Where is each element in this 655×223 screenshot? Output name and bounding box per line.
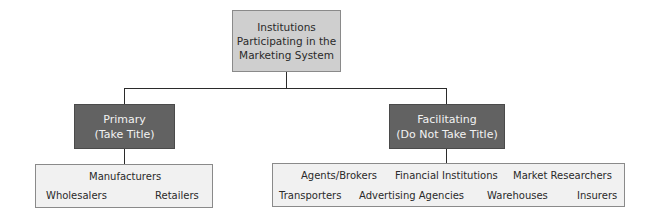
facilitating-item: Warehouses — [487, 190, 548, 201]
root-line-1: Institutions — [237, 20, 336, 34]
primary-item: Manufacturers — [89, 171, 161, 182]
facilitating-title: Facilitating — [417, 112, 477, 127]
connector-facilitating-in — [446, 88, 447, 104]
primary-item: Retailers — [155, 190, 199, 201]
facilitating-items-box: Agents/Brokers Financial Institutions Ma… — [272, 163, 625, 207]
facilitating-item: Advertising Agencies — [359, 190, 464, 201]
primary-subtitle: (Take Title) — [94, 127, 154, 142]
root-line-3: Marketing System — [237, 48, 336, 62]
root-line-2: Participating in the — [237, 34, 336, 48]
root-node: Institutions Participating in the Market… — [232, 10, 341, 72]
connector-facilitating-out — [446, 149, 447, 163]
primary-title: Primary — [103, 112, 146, 127]
facilitating-node: Facilitating (Do Not Take Title) — [389, 104, 505, 149]
facilitating-item: Market Researchers — [513, 170, 612, 181]
facilitating-item: Financial Institutions — [395, 170, 498, 181]
facilitating-item: Transporters — [279, 190, 341, 201]
connector-horizontal — [124, 88, 447, 89]
facilitating-item: Agents/Brokers — [301, 170, 377, 181]
primary-item: Wholesalers — [46, 190, 107, 201]
facilitating-subtitle: (Do Not Take Title) — [396, 127, 498, 142]
connector-primary-in — [124, 88, 125, 104]
connector-root-down — [286, 72, 287, 89]
primary-node: Primary (Take Title) — [74, 104, 175, 149]
facilitating-item: Insurers — [577, 190, 617, 201]
primary-items-box: Manufacturers Wholesalers Retailers — [35, 164, 213, 208]
connector-primary-out — [124, 149, 125, 164]
